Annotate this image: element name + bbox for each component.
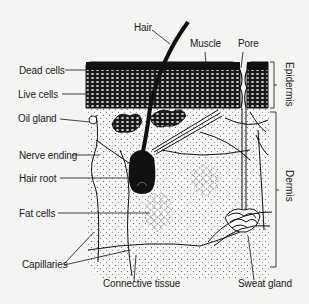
label-hair-root: Hair root	[19, 173, 56, 184]
label-pore: Pore	[238, 38, 259, 49]
label-fat-cells: Fat cells	[19, 208, 55, 219]
label-connective-tissue: Connective tissue	[103, 278, 180, 289]
label-oil-gland: Oil gland	[18, 113, 57, 124]
label-hair: Hair	[134, 22, 152, 33]
label-dead-cells: Dead cells	[19, 65, 65, 76]
label-dermis: Dermis	[284, 170, 295, 202]
label-live-cells: Live cells	[18, 89, 58, 100]
label-epidermis: Epidermis	[284, 62, 295, 106]
epidermis-layer	[86, 62, 268, 108]
label-sweat-gland: Sweat gland	[238, 278, 292, 289]
label-muscle: Muscle	[190, 38, 221, 49]
label-nerve-ending: Nerve ending	[19, 150, 77, 161]
label-capillaries: Capillaries	[22, 259, 68, 270]
